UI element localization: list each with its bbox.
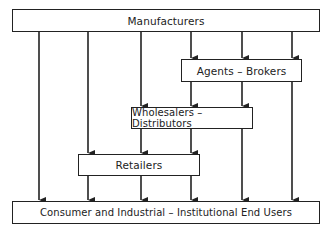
retailers-label: Retailers bbox=[116, 159, 163, 171]
wholesalers-distributors-box: Wholesalers – Distributors bbox=[131, 107, 253, 129]
wholesalers-distributors-label: Wholesalers – Distributors bbox=[132, 107, 252, 129]
end-users-box: Consumer and Industrial – Institutional … bbox=[12, 201, 320, 224]
manufacturers-box: Manufacturers bbox=[12, 9, 320, 32]
agents-brokers-label: Agents – Brokers bbox=[197, 65, 287, 77]
manufacturers-label: Manufacturers bbox=[127, 15, 204, 27]
agents-brokers-box: Agents – Brokers bbox=[181, 59, 302, 82]
retailers-box: Retailers bbox=[78, 154, 200, 176]
end-users-label: Consumer and Industrial – Institutional … bbox=[40, 207, 292, 218]
